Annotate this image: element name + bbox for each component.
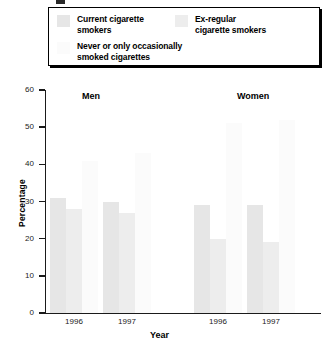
x-axis-title: Year [150,330,169,340]
bar [247,205,263,313]
x-axis-tick-label: 1996 [198,317,238,326]
bar [119,213,135,313]
bar [279,120,295,313]
bar [194,205,210,313]
bar [50,198,66,313]
y-axis-tick-label: 30 [10,197,34,206]
bar-chart: Percentage Year 0102030405060 1996199719… [0,0,326,351]
bar [210,239,226,313]
bar [66,209,82,313]
bar [135,153,151,313]
bars-container [45,90,321,313]
y-axis-tick-label: 60 [10,85,34,94]
y-axis-tick-label: 10 [10,271,34,280]
bar [82,161,98,313]
bar [103,202,119,314]
x-axis-tick-label: 1996 [54,317,94,326]
y-axis-tick-label: 20 [10,234,34,243]
y-axis-tick-label: 40 [10,159,34,168]
group-label-women: Women [237,91,269,101]
bar [263,242,279,313]
x-axis-line [45,313,321,314]
bar [226,123,242,313]
x-axis-tick-label: 1997 [251,317,291,326]
y-axis-tick-label: 50 [10,122,34,131]
x-axis-tick-label: 1997 [107,317,147,326]
group-label-men: Men [82,91,100,101]
y-axis-tick-label: 0 [10,308,34,317]
